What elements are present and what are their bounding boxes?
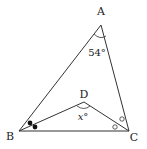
angle-mark-b-1 — [28, 121, 33, 126]
side-ab — [19, 25, 101, 131]
angle-mark-c-1 — [120, 117, 124, 121]
angle-mark-b-2 — [33, 125, 38, 130]
angle-mark-c-2 — [113, 125, 117, 129]
triangle-diagram: A B C D 54° x° — [0, 0, 147, 149]
angle-label-x: x° — [78, 111, 89, 122]
vertex-label-b: B — [6, 130, 14, 143]
vertex-label-c: C — [130, 131, 138, 144]
vertex-label-a: A — [96, 5, 106, 18]
segment-bd — [19, 102, 84, 131]
angle-label-a: 54° — [88, 47, 106, 58]
vertex-label-d: D — [80, 88, 89, 101]
angle-arc-d — [77, 106, 90, 109]
